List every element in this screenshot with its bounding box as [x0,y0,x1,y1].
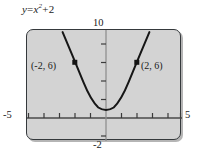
data-point-left-marker [72,60,77,65]
x-axis-ticks [29,113,181,118]
y-axis-max-label: 10 [93,17,104,28]
x-axis-max-label: 5 [185,109,190,120]
y-axis-ticks [101,44,106,136]
x-axis-min-label: -5 [3,109,12,120]
data-point-right-marker [134,60,139,65]
figure-graph-parabola: y=x2+2 [0,0,200,155]
data-point-left-label: (-2, 6) [31,60,56,71]
plot-frame [26,29,181,140]
data-point-right-label: (2, 6) [141,60,163,71]
y-axis-min-label: -2 [93,139,102,150]
plot-canvas [27,30,182,141]
equation-constant: 2 [49,3,55,15]
equation-caption: y=x2+2 [22,2,54,15]
